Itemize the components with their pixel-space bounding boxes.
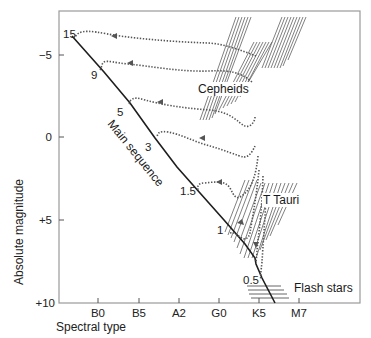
y-tick-label: −5 [39, 49, 52, 61]
x-tick-label: A2 [172, 307, 186, 319]
y-axis-ticks [59, 55, 64, 220]
track-9 [100, 61, 252, 82]
cepheid-instability-strip [200, 17, 306, 120]
mass-label: 9 [91, 69, 97, 81]
y-axis-tick-labels: −5 0 +5 +10 [35, 49, 55, 309]
hr-diagram: −5 0 +5 +10 Absolute magnitude B0 B5 A2 … [0, 0, 371, 338]
arrow-left-icon [157, 99, 163, 105]
x-tick-label: M7 [291, 307, 307, 319]
track-3 [157, 132, 255, 157]
x-axis-ticks [98, 298, 299, 303]
arrow-left-icon [127, 60, 133, 66]
arrow-left-icon [216, 179, 222, 185]
mass-label: 1 [217, 224, 223, 236]
mass-label: 1.5 [180, 185, 196, 197]
x-axis-tick-labels: B0 B5 A2 G0 K5 M7 [91, 307, 307, 319]
arrow-left-icon [199, 135, 205, 141]
mass-label: 3 [145, 141, 151, 153]
y-tick-label: 0 [46, 131, 52, 143]
y-tick-label: +5 [39, 214, 52, 226]
y-tick-label: +10 [35, 297, 55, 309]
x-axis-label: Spectral type [56, 320, 126, 334]
main-sequence-label: Main sequence [105, 117, 167, 189]
x-tick-label: G0 [211, 307, 226, 319]
mass-label: 0.5 [243, 274, 259, 286]
plot-frame [59, 11, 360, 303]
t-tauri-label: T Tauri [263, 193, 299, 207]
x-tick-label: K5 [252, 307, 266, 319]
x-tick-label: B5 [132, 307, 146, 319]
mass-label: 5 [117, 106, 123, 118]
x-tick-label: B0 [91, 307, 105, 319]
flash-stars-region [247, 286, 289, 298]
mass-label: 15 [63, 28, 76, 40]
track-5 [128, 98, 255, 126]
cepheids-label: Cepheids [198, 82, 249, 96]
mass-labels: 15 9 5 3 1.5 1 0.5 [63, 28, 259, 286]
y-axis-label: Absolute magnitude [12, 179, 26, 285]
flash-stars-label: Flash stars [294, 281, 353, 295]
diagram-canvas: −5 0 +5 +10 Absolute magnitude B0 B5 A2 … [0, 0, 371, 338]
track-0-5 [261, 196, 266, 280]
arrow-left-icon [111, 33, 117, 39]
track-15 [72, 31, 256, 56]
